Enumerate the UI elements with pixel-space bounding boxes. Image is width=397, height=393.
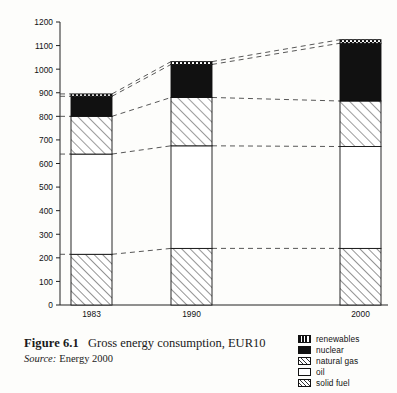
connector-line-oil (112, 146, 171, 154)
x-axis-category-label: 2000 (351, 309, 370, 319)
source-label: Source: (24, 353, 56, 364)
bar-segment-2000-solid-fuel[interactable] (340, 248, 381, 305)
caption-title-line: Figure 6.1Gross energy consumption, EUR1… (24, 336, 304, 351)
legend-label: nuclear (316, 345, 344, 355)
y-axis-tick-label: 600 (39, 159, 53, 169)
bar-segment-2000-natural-gas[interactable] (340, 101, 381, 147)
legend-item-solid-fuel: solid fuel (298, 378, 394, 388)
legend-swatch-renewables-icon (298, 335, 311, 343)
y-axis-tick-label: 700 (39, 135, 53, 145)
y-axis-tick-label: 500 (39, 182, 53, 192)
connector-line-renewables (212, 40, 340, 62)
y-axis-tick-label: 400 (39, 206, 53, 216)
bar-segment-1983-oil[interactable] (71, 154, 112, 254)
legend-swatch-oil-icon (298, 368, 311, 376)
figure-6-1: 0100200300400500600700800900100011001200… (0, 0, 397, 393)
legend-item-renewables: renewables (298, 334, 394, 344)
legend-item-oil: oil (298, 367, 394, 377)
bar-segment-2000-oil[interactable] (340, 147, 381, 249)
legend-item-natural-gas: natural gas (298, 356, 394, 366)
chart-legend: renewablesnuclearnatural gasoilsolid fue… (298, 334, 394, 389)
bar-segment-1990-renewables[interactable] (171, 62, 212, 65)
legend-label: natural gas (316, 356, 358, 366)
bar-segment-1983-nuclear[interactable] (71, 96, 112, 116)
legend-item-nuclear: nuclear (298, 345, 394, 355)
bar-segment-2000-nuclear[interactable] (340, 43, 381, 101)
x-axis-category-label: 1990 (182, 309, 201, 319)
bar-segment-1983-solid-fuel[interactable] (71, 254, 112, 305)
legend-swatch-solid-fuel-icon (298, 379, 311, 387)
bar-segment-1983-natural-gas[interactable] (71, 116, 112, 154)
source-value: Energy 2000 (56, 353, 113, 364)
bar-segment-1990-nuclear[interactable] (171, 64, 212, 97)
legend-swatch-nuclear-icon (298, 346, 311, 354)
y-axis-tick-label: 0 (48, 300, 53, 310)
legend-label: solid fuel (316, 378, 350, 388)
bar-segment-1990-oil[interactable] (171, 146, 212, 249)
bar-segment-2000-renewables[interactable] (340, 40, 381, 44)
connector-line-natural-gas (212, 97, 340, 101)
connector-line-nuclear (212, 43, 340, 64)
x-axis-category-label: 1983 (82, 309, 101, 319)
figure-title: Gross energy consumption, EUR10 (79, 336, 266, 350)
legend-swatch-natural-gas-icon (298, 357, 311, 365)
stacked-bar-chart: 0100200300400500600700800900100011001200… (0, 0, 397, 320)
connector-line-oil (212, 146, 340, 147)
connector-line-renewables (112, 62, 171, 94)
y-axis-tick-label: 300 (39, 230, 53, 240)
chart-plot-area: 0100200300400500600700800900100011001200… (0, 0, 397, 320)
y-axis-tick-label: 1000 (34, 65, 53, 75)
y-axis-tick-label: 800 (39, 112, 53, 122)
y-axis-tick-label: 1100 (35, 41, 53, 51)
connector-line-natural-gas (112, 97, 171, 116)
connector-line-nuclear (112, 64, 171, 96)
y-axis-tick-label: 100 (39, 277, 53, 287)
caption-source-line: Source:Energy 2000 (24, 352, 304, 365)
y-axis-tick-label: 200 (39, 253, 53, 263)
legend-label: renewables (316, 334, 359, 344)
legend-label: oil (316, 367, 325, 377)
bar-segment-1990-solid-fuel[interactable] (171, 248, 212, 305)
bar-segment-1990-natural-gas[interactable] (171, 97, 212, 145)
connector-line-solid-fuel (112, 248, 171, 254)
y-axis-tick-label: 900 (39, 88, 53, 98)
figure-number: Figure 6.1 (24, 336, 79, 350)
bar-segment-1983-renewables[interactable] (71, 94, 112, 96)
y-axis-tick-label: 1200 (34, 17, 53, 27)
figure-caption: Figure 6.1Gross energy consumption, EUR1… (24, 336, 304, 365)
